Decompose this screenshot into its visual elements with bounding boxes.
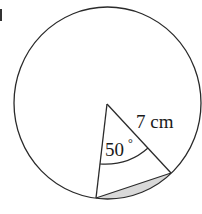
radius-label: 7 cm xyxy=(136,111,174,132)
angle-label: 50 xyxy=(105,139,124,160)
cropped-edge-mark xyxy=(0,9,2,21)
degree-symbol: ° xyxy=(128,136,133,150)
circle-outline xyxy=(14,7,201,199)
circle-diagram: 7 cm 50 ° xyxy=(0,0,202,214)
